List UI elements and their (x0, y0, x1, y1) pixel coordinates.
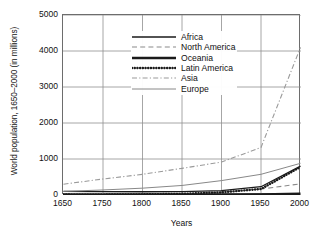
chart-figure: World population, 1650–2000 (in millions… (0, 0, 311, 237)
legend-item-africa: Africa (132, 32, 235, 42)
legend-label: North America (181, 42, 235, 52)
legend-label: Latin America (181, 63, 233, 73)
x-tick-label: 1650 (53, 198, 72, 208)
legend-swatch-icon (132, 73, 176, 83)
y-tick-label: 3000 (0, 81, 58, 91)
legend-item-oceania: Oceania (132, 53, 235, 63)
plot-area: AfricaNorth AmericaOceaniaLatin AmericaA… (62, 14, 300, 194)
legend-item-europe: Europe (132, 83, 235, 93)
x-tick-label: 1750 (93, 198, 112, 208)
legend-swatch-icon (132, 84, 176, 94)
legend-label: Asia (181, 73, 198, 83)
legend-label: Africa (181, 32, 203, 42)
legend-swatch-icon (132, 32, 176, 42)
x-tick-label: 1950 (251, 198, 270, 208)
legend-item-north-america: North America (132, 42, 235, 52)
legend-swatch-icon (132, 63, 176, 73)
y-tick-label: 5000 (0, 9, 58, 19)
legend-swatch-icon (132, 42, 176, 52)
y-axis-title: World population, 1650–2000 (in millions… (9, 6, 19, 196)
legend-label: Oceania (181, 53, 213, 63)
legend: AfricaNorth AmericaOceaniaLatin AmericaA… (131, 31, 237, 95)
x-axis-title: Years (62, 218, 301, 228)
legend-swatch-icon (132, 53, 176, 63)
legend-item-latin-america: Latin America (132, 63, 235, 73)
legend-item-asia: Asia (132, 73, 235, 83)
y-tick-label: 2000 (0, 117, 58, 127)
y-tick-label: 1000 (0, 153, 58, 163)
legend-label: Europe (181, 84, 209, 94)
x-tick-label: 1850 (172, 198, 191, 208)
x-tick-label: 1900 (211, 198, 230, 208)
y-tick-label: 4000 (0, 45, 58, 55)
x-tick-label: 2000 (290, 198, 309, 208)
y-tick-label: 0 (0, 189, 58, 199)
x-tick-label: 1800 (132, 198, 151, 208)
